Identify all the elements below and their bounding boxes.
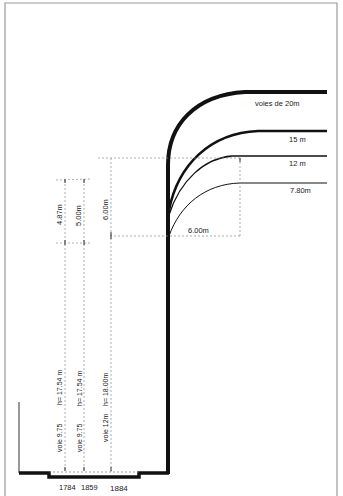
label-4-87m: 4.87m (55, 204, 64, 225)
label-h-1859: h= 17.54 m (76, 371, 83, 406)
dimension-lines (56, 158, 240, 472)
curve-20m (168, 92, 327, 474)
setback-diagram: voies de 20m 15 m 12 m 7.80m 6.00m 4.87m… (0, 0, 343, 496)
label-h-1884: h= 18.00m (102, 373, 109, 406)
label-6-00m: 6.00m (101, 199, 110, 220)
dimension-ticks (65, 158, 240, 471)
page-frame (5, 3, 337, 496)
year-1884: 1884 (110, 484, 128, 493)
label-h-1784: h= 17.54 m (56, 370, 63, 405)
label-12m: 12 m (289, 159, 306, 168)
label-5-00m: 5.00m (74, 205, 83, 226)
label-15m: 15 m (289, 135, 306, 144)
label-20m: voies de 20m (255, 99, 300, 108)
year-1784: 1784 (59, 483, 76, 492)
label-7-80m: 7.80m (290, 186, 311, 195)
year-1859: 1859 (81, 483, 98, 492)
label-offset-6m: 6.00m (188, 226, 209, 235)
ground-profile (19, 473, 169, 477)
label-voie-1859: voie 9.75 (76, 423, 83, 452)
label-voie-1884: voie 12m (102, 413, 109, 442)
label-voie-1784: voie 9.75 (56, 423, 63, 452)
